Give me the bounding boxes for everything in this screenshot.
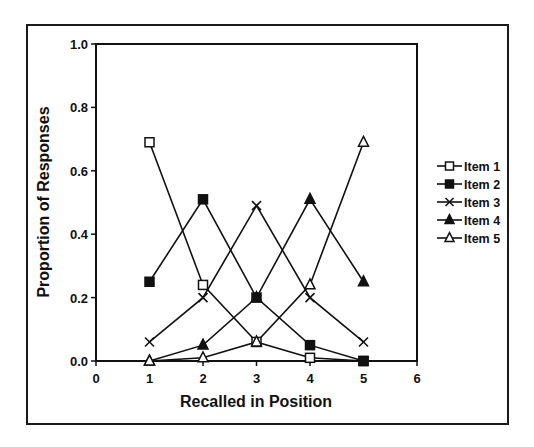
- filled-triangle-marker-icon: [305, 193, 315, 203]
- y-tick-label: 1.0: [70, 37, 88, 52]
- legend: Item 1Item 2Item 3Item 4Item 5: [437, 160, 500, 246]
- x-tick-label: 2: [199, 371, 206, 386]
- series-line: [150, 142, 364, 361]
- plot-area: [96, 44, 417, 361]
- plot-border: [96, 44, 417, 361]
- filled-square-marker-icon: [359, 357, 368, 366]
- legend-label: Item 2: [464, 178, 500, 192]
- x-marker-icon: [145, 337, 154, 346]
- x-axis: 0123456: [92, 361, 420, 386]
- open-triangle-marker-icon: [359, 136, 369, 146]
- filled-square-marker-icon: [145, 277, 154, 286]
- y-tick-label: 0.6: [70, 164, 88, 179]
- line-chart: 0123456 0.00.20.40.60.81.0 Recalled in P…: [0, 0, 534, 447]
- x-tick-label: 6: [413, 371, 420, 386]
- series-item-1: [150, 142, 364, 361]
- filled-square-marker-icon: [306, 341, 315, 350]
- open-square-marker-icon: [199, 280, 208, 289]
- series-markers: [145, 201, 368, 346]
- legend-label: Item 4: [464, 214, 500, 228]
- x-marker-icon: [306, 293, 315, 302]
- legend-item: Item 5: [437, 232, 500, 246]
- open-square-marker-icon: [446, 162, 454, 170]
- filled-triangle-marker-icon: [198, 339, 208, 349]
- legend-item: Item 4: [437, 214, 500, 228]
- open-square-marker-icon: [145, 138, 154, 147]
- y-tick-label: 0.8: [70, 100, 88, 115]
- open-square-marker-icon: [306, 353, 315, 362]
- series-layer: [145, 136, 369, 365]
- x-tick-label: 0: [92, 371, 99, 386]
- filled-triangle-marker-icon: [445, 215, 454, 224]
- legend-label: Item 3: [464, 196, 500, 210]
- legend-item: Item 1: [437, 160, 500, 174]
- open-triangle-marker-icon: [445, 233, 454, 242]
- y-axis: 0.00.20.40.60.81.0: [70, 37, 96, 369]
- open-triangle-marker-icon: [305, 279, 315, 289]
- series-markers: [145, 136, 369, 365]
- x-tick-label: 1: [146, 371, 153, 386]
- x-tick-label: 3: [253, 371, 260, 386]
- y-tick-label: 0.0: [70, 354, 88, 369]
- filled-square-marker-icon: [199, 195, 208, 204]
- x-tick-label: 4: [306, 371, 314, 386]
- y-tick-label: 0.2: [70, 291, 88, 306]
- x-marker-icon: [359, 337, 368, 346]
- legend-item: Item 2: [437, 178, 500, 192]
- x-marker-icon: [252, 201, 261, 210]
- x-axis-title: Recalled in Position: [180, 393, 332, 410]
- x-tick-label: 5: [360, 371, 367, 386]
- legend-label: Item 5: [464, 232, 500, 246]
- y-axis-title: Proportion of Responses: [35, 106, 52, 297]
- series-item-5: [150, 142, 364, 361]
- series-markers: [145, 138, 368, 366]
- x-marker-icon: [199, 293, 208, 302]
- legend-label: Item 1: [464, 160, 500, 174]
- legend-item: Item 3: [437, 196, 500, 210]
- series-line: [150, 142, 364, 361]
- filled-square-marker-icon: [446, 180, 454, 188]
- y-tick-label: 0.4: [70, 227, 89, 242]
